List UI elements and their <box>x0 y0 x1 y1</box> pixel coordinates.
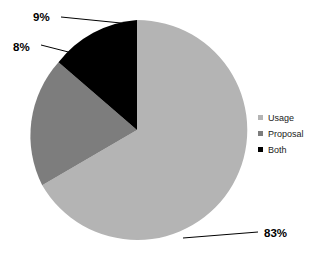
slice-label-both: 9% <box>33 11 50 23</box>
legend-swatch-proposal-icon <box>258 131 263 136</box>
pie-chart-svg: 9% 8% 83% Usage Proposal Both <box>0 0 320 254</box>
slice-label-usage: 83% <box>264 227 287 239</box>
slice-label-proposal: 8% <box>13 41 30 53</box>
legend-label-both: Both <box>268 145 287 155</box>
leader-line-both <box>61 17 131 24</box>
legend-item-proposal[interactable]: Proposal <box>258 129 304 139</box>
chart-legend: Usage Proposal Both <box>258 113 304 155</box>
legend-swatch-both-icon <box>258 147 263 152</box>
pie-chart-figure: 9% 8% 83% Usage Proposal Both <box>0 0 320 254</box>
legend-item-both[interactable]: Both <box>258 145 287 155</box>
leader-line-usage <box>183 232 258 238</box>
legend-label-proposal: Proposal <box>268 129 304 139</box>
legend-item-usage[interactable]: Usage <box>258 113 294 123</box>
legend-label-usage: Usage <box>268 113 294 123</box>
legend-swatch-usage-icon <box>258 115 263 120</box>
